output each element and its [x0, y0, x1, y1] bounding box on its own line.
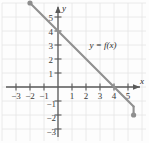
grid-lines — [2, 3, 146, 141]
y-tick-label: 2 — [49, 55, 54, 65]
x-tick-label: −3 — [11, 91, 21, 101]
x-tick-label: 4 — [112, 91, 117, 101]
x-tick-label: 3 — [98, 91, 103, 101]
line-endpoint-left — [27, 0, 32, 5]
y-tick-label: −2 — [46, 113, 56, 123]
y-tick-label: 3 — [49, 41, 54, 51]
y-tick-label: 1 — [49, 69, 54, 79]
y-axis-arrow — [55, 6, 61, 13]
x-axis-arrow — [133, 84, 140, 90]
coordinate-plane: −3 −2 −1 1 2 3 4 5 5 4 3 2 1 −1 −2 −3 x … — [0, 0, 149, 143]
x-axis-name: x — [139, 76, 144, 86]
y-tick-label: −3 — [46, 127, 56, 137]
x-tick-label: 2 — [84, 91, 89, 101]
x-tick-label: 1 — [70, 91, 75, 101]
y-axis-name: y — [61, 3, 66, 13]
y-tick-label: −1 — [46, 99, 56, 109]
y-tick-label: 4 — [49, 27, 54, 37]
x-tick-label: −2 — [25, 91, 35, 101]
graph-figure: −3 −2 −1 1 2 3 4 5 5 4 3 2 1 −1 −2 −3 x … — [0, 0, 149, 143]
x-tick-labels: −3 −2 −1 1 2 3 4 5 — [11, 91, 131, 101]
axes — [6, 7, 140, 137]
curve-label: y = f(x) — [88, 40, 116, 50]
